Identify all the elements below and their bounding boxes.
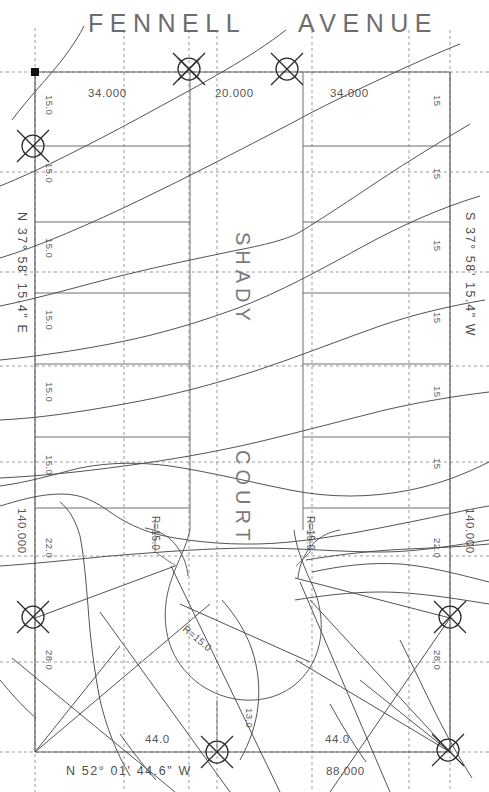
- corner-point: [31, 68, 39, 76]
- monument-east-lower: [434, 601, 466, 633]
- dim-south-right: 44.0: [325, 733, 350, 745]
- dim-west-4: 15.0: [44, 310, 55, 330]
- dim-east-7: 22.0: [432, 538, 443, 558]
- dim-center-stub: 13.0: [244, 708, 255, 728]
- monument-west-lower: [17, 601, 49, 633]
- grid-lines: [0, 28, 489, 792]
- dim-south-overall: 88.000: [326, 765, 365, 777]
- dim-east-8: 28.0: [432, 650, 443, 670]
- dim-west-overall: 140.000: [16, 508, 28, 554]
- dim-north-right: 34.000: [330, 87, 369, 99]
- dim-east-2: 15: [432, 168, 443, 179]
- radius-right-return: R=15.0: [305, 516, 316, 550]
- dim-south-left: 44.0: [145, 733, 170, 745]
- dim-east-6: 15: [432, 458, 443, 469]
- cul-de-sac: [145, 528, 340, 700]
- dim-east-5: 15: [432, 386, 443, 397]
- monument-west-upper: [17, 130, 49, 162]
- street-title-avenue: AVENUE: [298, 9, 438, 37]
- monument-north-1: [173, 53, 205, 85]
- dim-north-center: 20.000: [215, 87, 254, 99]
- dim-east-overall: 140.000: [464, 508, 476, 554]
- dim-west-5: 15.0: [44, 382, 55, 402]
- monument-south-east: [432, 734, 464, 766]
- radius-left-return: R=15.0: [150, 516, 161, 550]
- south-diagonal-lines: [12, 566, 450, 792]
- monument-north-2: [271, 53, 303, 85]
- monument-south-center: [201, 736, 233, 768]
- dim-west-7: 22.0: [44, 538, 55, 558]
- street-title-fennell: FENNELL: [88, 9, 246, 37]
- dim-west-2: 15.0: [44, 163, 55, 183]
- dim-west-8: 28.0: [44, 650, 55, 670]
- bearing-south-line: N 52° 01' 44.6" W: [66, 764, 192, 778]
- dim-west-3: 15.0: [44, 238, 55, 258]
- parcel-boundary: [35, 72, 450, 752]
- plat-canvas: FENNELL AVENUE SHADY COURT 34.000 20.000…: [0, 0, 489, 792]
- dim-east-4: 15: [432, 312, 443, 323]
- contour-lines: [0, 26, 489, 780]
- dim-east-3: 15: [432, 240, 443, 251]
- dim-east-1: 15: [432, 95, 443, 106]
- bearing-west-line: N 37° 58' 15.4" E: [15, 212, 29, 334]
- radius-cul-de-sac: R=15.0: [181, 623, 214, 654]
- survey-plat-drawing: FENNELL AVENUE SHADY COURT 34.000 20.000…: [0, 0, 489, 792]
- bearing-east-line: S 37° 58' 15.4" W: [463, 212, 477, 337]
- lot-lines-west: [35, 146, 190, 508]
- street-title-court: COURT: [232, 450, 254, 546]
- dim-north-left: 34.000: [88, 87, 127, 99]
- dim-west-6: 15.0: [44, 455, 55, 475]
- street-title-shady: SHADY: [232, 232, 254, 326]
- dim-west-1: 15.0: [44, 95, 55, 115]
